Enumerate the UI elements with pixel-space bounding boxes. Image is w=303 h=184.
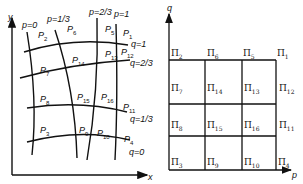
label-p23: p=2/3 bbox=[88, 7, 112, 17]
curve-p13 bbox=[55, 30, 77, 158]
svg-text:Π3: Π3 bbox=[171, 157, 183, 169]
svg-text:Π5: Π5 bbox=[243, 48, 255, 60]
svg-text:Π11: Π11 bbox=[279, 120, 295, 132]
label-q1: q=1 bbox=[131, 39, 146, 49]
svg-text:Π7: Π7 bbox=[171, 83, 183, 95]
svg-text:Π16: Π16 bbox=[244, 120, 260, 132]
svg-text:P1: P1 bbox=[123, 28, 133, 40]
curve-q13 bbox=[27, 105, 127, 112]
svg-text:P4: P4 bbox=[124, 134, 134, 146]
svg-text:Π1: Π1 bbox=[277, 48, 289, 60]
curve-p1 bbox=[115, 24, 117, 160]
svg-text:P8: P8 bbox=[40, 94, 50, 106]
svg-text:Π12: Π12 bbox=[279, 83, 295, 95]
left-labels: y x p=0 p=1/3 p=2/3 p=1 q=1 q=2/3 q=1/3 … bbox=[7, 7, 153, 182]
diagram-canvas: y x p=0 p=1/3 p=2/3 p=1 q=1 q=2/3 q=1/3 … bbox=[0, 0, 303, 184]
label-q23: q=2/3 bbox=[130, 58, 153, 68]
svg-text:P10: P10 bbox=[97, 128, 110, 140]
label-p0: p=0 bbox=[21, 20, 37, 30]
q-axis-label: q bbox=[167, 3, 172, 13]
svg-text:P6: P6 bbox=[67, 24, 77, 36]
label-q0: q=0 bbox=[129, 147, 144, 157]
label-q13: q=1/3 bbox=[130, 114, 153, 124]
svg-text:P7: P7 bbox=[40, 65, 50, 77]
svg-text:Π9: Π9 bbox=[207, 157, 219, 169]
svg-text:P5: P5 bbox=[105, 24, 115, 36]
label-p13: p=1/3 bbox=[46, 14, 70, 24]
svg-text:Π6: Π6 bbox=[207, 48, 219, 60]
right-labels: q p Π2 Π6 Π5 Π1 Π7 Π14 Π13 Π12 Π8 Π15 Π1… bbox=[167, 3, 297, 180]
svg-text:Π15: Π15 bbox=[207, 120, 223, 132]
x-axis-label: x bbox=[147, 172, 153, 182]
label-p1: p=1 bbox=[113, 9, 129, 19]
svg-text:Π10: Π10 bbox=[244, 157, 260, 169]
svg-text:P3: P3 bbox=[40, 125, 50, 137]
p-axis-label: p bbox=[291, 170, 297, 180]
curve-q0 bbox=[27, 134, 130, 142]
curve-q1 bbox=[24, 42, 128, 52]
svg-text:P14: P14 bbox=[72, 55, 85, 67]
svg-text:Π13: Π13 bbox=[244, 83, 260, 95]
right-panel bbox=[169, 14, 291, 170]
svg-text:Π14: Π14 bbox=[207, 83, 223, 95]
y-axis-label: y bbox=[7, 12, 13, 22]
svg-text:P2: P2 bbox=[38, 30, 48, 42]
curve-p23 bbox=[87, 18, 97, 160]
svg-text:P16: P16 bbox=[101, 92, 114, 104]
svg-text:Π8: Π8 bbox=[171, 120, 183, 132]
svg-text:P9: P9 bbox=[79, 125, 89, 137]
svg-text:Π4: Π4 bbox=[278, 157, 290, 169]
svg-text:Π2: Π2 bbox=[171, 48, 183, 60]
svg-text:P15: P15 bbox=[77, 92, 90, 104]
